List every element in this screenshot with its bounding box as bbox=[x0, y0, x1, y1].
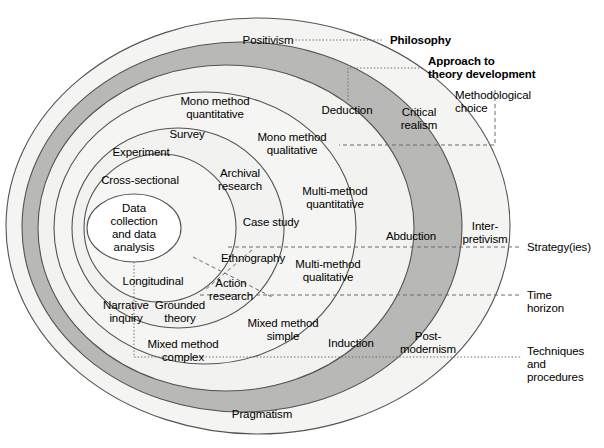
label-case-study: Case study bbox=[243, 216, 300, 229]
label-action-research: Action research bbox=[209, 277, 253, 303]
label-postmodernism: Post- modernism bbox=[400, 330, 456, 356]
label-mono-method-qualitative: Mono method qualitative bbox=[257, 131, 326, 157]
callout-methodological-choice: Methodological choice bbox=[455, 89, 531, 115]
label-mono-method-quantitative: Mono method quantitative bbox=[180, 95, 249, 121]
callout-time-horizon: Time horizon bbox=[527, 289, 564, 315]
label-multi-method-qualitative: Multi-method qualitative bbox=[295, 258, 360, 284]
label-mixed-method-simple: Mixed method simple bbox=[247, 317, 318, 343]
label-archival-research: Archival research bbox=[218, 167, 262, 193]
label-longitudinal: Longitudinal bbox=[123, 275, 184, 288]
label-experiment: Experiment bbox=[112, 146, 169, 159]
callout-strategies: Strategy(ies) bbox=[527, 241, 591, 254]
label-multi-method-quantitative: Multi-method quantitative bbox=[302, 185, 367, 211]
label-deduction: Deduction bbox=[322, 104, 373, 117]
label-mixed-method-complex: Mixed method complex bbox=[147, 338, 218, 364]
label-interpretivism: Inter- pretivism bbox=[462, 220, 507, 246]
label-survey: Survey bbox=[169, 128, 204, 141]
callout-philosophy: Philosophy bbox=[390, 34, 451, 47]
label-induction: Induction bbox=[328, 337, 374, 350]
label-data-collection-and-data-analysis: Data collection and data analysis bbox=[111, 202, 158, 254]
callout-techniques-and-procedures: Techniques and procedures bbox=[527, 345, 604, 384]
label-cross-sectional: Cross-sectional bbox=[101, 174, 179, 187]
label-abduction: Abduction bbox=[386, 230, 436, 243]
label-ethnography: Ethnography bbox=[221, 252, 285, 265]
research-onion-diagram: Philosophy Approach to theory developmen… bbox=[0, 0, 604, 448]
label-grounded-theory: Grounded theory bbox=[155, 299, 205, 325]
callout-approach-to-theory-development: Approach to theory development bbox=[428, 55, 535, 81]
label-critical-realism: Critical realism bbox=[401, 106, 437, 132]
label-pragmatism: Pragmatism bbox=[232, 408, 292, 421]
label-positivism: Positivism bbox=[243, 34, 294, 47]
label-narrative-inquiry: Narrative inquiry bbox=[103, 299, 149, 325]
